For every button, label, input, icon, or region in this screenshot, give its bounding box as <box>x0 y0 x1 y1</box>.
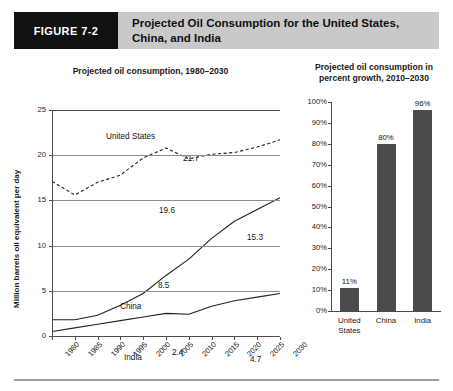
line-chart-title: Projected oil consumption, 1980–2030 <box>18 66 283 77</box>
line-chart-gridline <box>52 291 280 292</box>
line-chart-x-tick-label: 2010 <box>200 340 218 358</box>
bar-category-label: India <box>400 316 446 326</box>
line-chart-x-tick-mark <box>120 337 121 340</box>
bar-chart-y-tick-mark <box>328 290 331 291</box>
bar-chart-y-tick-label: 80% <box>294 139 327 148</box>
bar-chart-y-tick-mark <box>328 165 331 166</box>
line-chart-x-tick-label: 2000 <box>154 340 172 358</box>
bar-value-label: 96% <box>403 99 443 108</box>
line-chart-y-tick-label: 10 <box>18 241 46 250</box>
series-label-india: India <box>124 353 142 362</box>
bar-chart-y-tick-label: 50% <box>294 202 327 211</box>
line-chart-x-tick-label: 1985 <box>86 340 104 358</box>
line-chart-x-tick-mark <box>166 337 167 340</box>
line-chart-x-tick-mark <box>212 337 213 340</box>
figure-number-label: FIGURE 7-2 <box>34 25 99 37</box>
figure-header: FIGURE 7-2 Projected Oil Consumption for… <box>14 12 439 49</box>
line-chart-x-tick-mark <box>257 337 258 340</box>
bar-chart-y-tick-label: 0% <box>294 306 327 315</box>
bar-chart-y-tick-label: 20% <box>294 264 327 273</box>
bar-chart-x-axis <box>331 311 441 312</box>
bar-chart-y-tick-label: 100% <box>294 97 327 106</box>
bar-united-states <box>340 288 359 311</box>
line-series-united-states <box>52 140 280 195</box>
line-chart: Projected oil consumption, 1980–2030 Mil… <box>0 56 292 386</box>
line-chart-x-tick-mark <box>98 337 99 340</box>
series-label-united-states: United States <box>106 132 155 141</box>
line-chart-x-tick-mark <box>143 337 144 340</box>
line-series-svg <box>52 110 280 336</box>
bar-chart-y-tick-mark <box>328 227 331 228</box>
line-chart-gridline <box>52 200 280 201</box>
bar-chart-y-tick-label: 70% <box>294 160 327 169</box>
line-chart-gridline <box>52 155 280 156</box>
bar-chart-y-tick-mark <box>328 186 331 187</box>
bar-value-label: 11% <box>329 277 369 286</box>
bar-china <box>377 144 396 311</box>
line-chart-y-tick-label: 5 <box>18 286 46 295</box>
line-chart-x-tick-mark <box>189 337 190 340</box>
line-series-china <box>52 198 280 320</box>
bar-chart: Projected oil consumption in percent gro… <box>292 56 453 386</box>
figure-number-badge: FIGURE 7-2 <box>14 12 118 49</box>
line-chart-x-tick-label: 1980 <box>63 340 81 358</box>
bar-chart-y-tick-label: 90% <box>294 118 327 127</box>
value-label-china-2030: 15.3 <box>247 233 263 242</box>
line-chart-x-tick-mark <box>234 337 235 340</box>
line-chart-y-tick-label: 0 <box>18 331 46 340</box>
bar-chart-title: Projected oil consumption in percent gro… <box>298 62 450 83</box>
bar-india <box>413 110 432 311</box>
line-chart-x-tick-mark <box>75 337 76 340</box>
bar-chart-y-tick-label: 30% <box>294 243 327 252</box>
bar-chart-y-tick-label: 10% <box>294 285 327 294</box>
value-label-india-2010: 2.4 <box>172 348 183 357</box>
line-chart-x-tick-mark <box>52 337 53 340</box>
value-label-us-2010: 19.6 <box>159 206 175 215</box>
figure-root: FIGURE 7-2 Projected Oil Consumption for… <box>0 0 453 391</box>
bar-chart-y-tick-mark <box>328 269 331 270</box>
bar-chart-y-tick-mark <box>328 248 331 249</box>
line-chart-y-axis <box>52 110 53 337</box>
bar-chart-y-tick-mark <box>328 144 331 145</box>
bar-chart-y-tick-mark <box>328 123 331 124</box>
figure-footer-rule <box>14 379 439 381</box>
bar-chart-y-tick-mark <box>328 102 331 103</box>
line-chart-y-tick-label: 20 <box>18 150 46 159</box>
bar-chart-y-tick-label: 40% <box>294 222 327 231</box>
value-label-china-2010: 8.5 <box>158 281 169 290</box>
line-chart-x-tick-label: 2015 <box>223 340 241 358</box>
line-chart-gridline <box>52 110 280 111</box>
value-label-india-2030: 4.7 <box>250 355 261 364</box>
line-chart-gridline <box>52 246 280 247</box>
line-chart-y-tick-label: 15 <box>18 195 46 204</box>
bar-chart-y-tick-label: 60% <box>294 181 327 190</box>
bar-chart-y-tick-mark <box>328 207 331 208</box>
line-chart-y-tick-label: 25 <box>18 105 46 114</box>
line-chart-x-tick-label: 2025 <box>268 340 286 358</box>
figure-title: Projected Oil Consumption for the United… <box>118 12 439 49</box>
line-series-india <box>52 294 280 332</box>
line-chart-x-tick-mark <box>280 337 281 340</box>
bar-value-label: 80% <box>366 133 406 142</box>
series-label-china: China <box>120 302 141 311</box>
line-plot-area <box>52 110 280 336</box>
bar-chart-y-tick-mark <box>328 311 331 312</box>
